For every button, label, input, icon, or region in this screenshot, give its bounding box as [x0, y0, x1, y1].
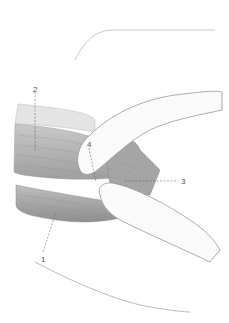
illustration-drawing — [0, 0, 229, 323]
label-4: 4 — [87, 141, 91, 149]
label-1: 1 — [41, 256, 45, 264]
label-2: 2 — [33, 86, 37, 94]
anatomical-illustration: 1 2 3 4 — [0, 0, 229, 323]
label-3: 3 — [181, 178, 185, 186]
